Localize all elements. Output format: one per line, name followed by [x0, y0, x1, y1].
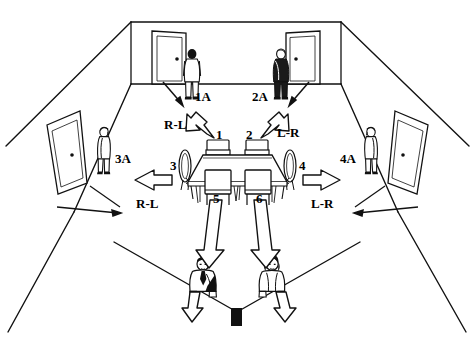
back-right-door-knob: [294, 57, 298, 61]
room-layout-illustration: [0, 0, 475, 340]
left-side-door-knob: [70, 153, 74, 157]
label-2A: 2A: [252, 90, 268, 103]
chair-1[interactable]: [206, 140, 230, 155]
label-direction-mid-right: L-R: [311, 197, 333, 210]
label-4A: 4A: [340, 152, 356, 165]
back-left-door[interactable]: [152, 31, 186, 84]
label-seat-3: 3: [170, 159, 177, 172]
label-seat-1: 1: [216, 128, 223, 141]
chair-2[interactable]: [245, 140, 269, 155]
label-direction-top-left: R-L: [164, 118, 186, 131]
table-top: [188, 155, 287, 186]
label-seat-2: 2: [246, 128, 253, 141]
back-left-door-knob: [175, 57, 179, 61]
label-1A: 1A: [195, 90, 211, 103]
label-seat-4: 4: [299, 159, 306, 172]
label-3A: 3A: [115, 152, 131, 165]
diagram-canvas: 1A 2A 3A 4A R-L L-R R-L L-R 1 2 3 4 5 6: [0, 0, 475, 340]
front-center-post: [231, 308, 242, 326]
label-direction-mid-left: R-L: [136, 197, 158, 210]
label-seat-6: 6: [256, 192, 263, 205]
back-right-door[interactable]: [286, 31, 320, 84]
label-seat-5: 5: [213, 192, 220, 205]
right-side-door-knob: [401, 153, 405, 157]
label-direction-top-right: L-R: [277, 126, 299, 139]
